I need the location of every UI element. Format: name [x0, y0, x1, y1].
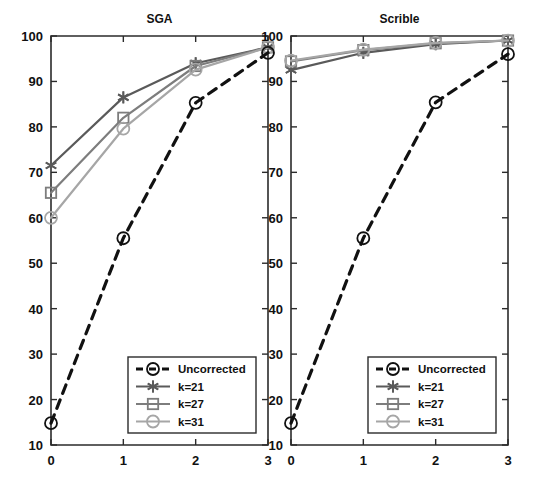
- y-tick-label: 50: [29, 256, 43, 271]
- panel-sga: SGA1020304050607080901000123Uncorrectedk…: [21, 12, 274, 468]
- chart-svg: SGA1020304050607080901000123Uncorrectedk…: [0, 0, 539, 493]
- y-tick-label: 100: [21, 29, 43, 44]
- legend: Uncorrectedk=21k=27k=31: [128, 357, 256, 433]
- x-tick-label: 3: [504, 453, 511, 468]
- y-tick-label: 20: [269, 393, 283, 408]
- y-tick-label: 20: [29, 393, 43, 408]
- legend: Uncorrectedk=21k=27k=31: [368, 357, 496, 433]
- panel-title: Scrible: [379, 12, 419, 26]
- series-k-27: [46, 42, 273, 198]
- y-tick-label: 60: [29, 211, 43, 226]
- y-tick-label: 90: [269, 74, 283, 89]
- panel-title: SGA: [146, 12, 172, 26]
- y-tick-label: 100: [261, 29, 283, 44]
- x-tick-label: 3: [264, 453, 271, 468]
- legend-label: k=27: [418, 398, 444, 410]
- y-tick-label: 80: [29, 120, 43, 135]
- figure-canvas: SGA1020304050607080901000123Uncorrectedk…: [0, 0, 539, 493]
- series-line: [51, 47, 268, 217]
- series-k-31: [45, 41, 274, 223]
- series-line: [291, 41, 508, 62]
- y-tick-label: 70: [269, 165, 283, 180]
- x-tick-label: 0: [287, 453, 294, 468]
- legend-label: k=21: [418, 381, 445, 393]
- legend-label: k=21: [178, 381, 205, 393]
- legend-label: k=27: [178, 398, 204, 410]
- legend-label: Uncorrected: [178, 363, 246, 375]
- series-k-31: [285, 35, 514, 67]
- x-tick-label: 0: [47, 453, 54, 468]
- y-tick-label: 90: [29, 74, 43, 89]
- x-tick-label: 1: [120, 453, 127, 468]
- panel-scrible: Scrible1020304050607080901000123Uncorrec…: [261, 12, 514, 468]
- y-tick-label: 30: [29, 347, 43, 362]
- series-line: [51, 47, 268, 165]
- series-k-21: [46, 41, 273, 171]
- y-tick-label: 10: [269, 438, 283, 453]
- x-tick-label: 2: [432, 453, 439, 468]
- y-tick-label: 70: [29, 165, 43, 180]
- legend-label: k=31: [178, 416, 205, 428]
- x-tick-label: 1: [360, 453, 367, 468]
- series-line: [291, 41, 508, 61]
- y-tick-label: 50: [269, 256, 283, 271]
- series-k-27: [286, 35, 513, 66]
- y-tick-label: 10: [29, 438, 43, 453]
- y-tick-label: 30: [269, 347, 283, 362]
- y-tick-label: 80: [269, 120, 283, 135]
- y-tick-label: 60: [269, 211, 283, 226]
- x-tick-label: 2: [192, 453, 199, 468]
- legend-label: k=31: [418, 416, 445, 428]
- y-tick-label: 40: [269, 302, 283, 317]
- legend-label: Uncorrected: [418, 363, 486, 375]
- y-tick-label: 40: [29, 302, 43, 317]
